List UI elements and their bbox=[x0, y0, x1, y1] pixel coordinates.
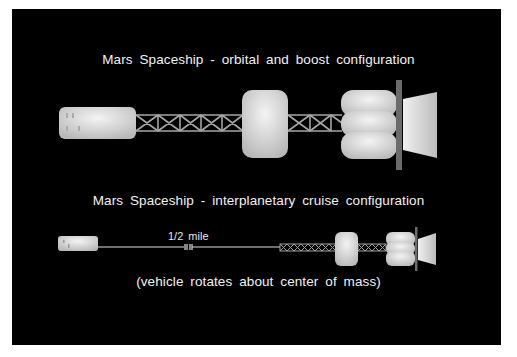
propellant-tank-icon bbox=[242, 90, 288, 158]
thrust-plate-small-icon bbox=[415, 227, 418, 271]
habitat-module-icon bbox=[59, 107, 136, 139]
truss-icon bbox=[136, 115, 342, 131]
engine-tank-cluster-small-icon bbox=[386, 232, 415, 266]
boost-configuration-diagram bbox=[0, 0, 517, 357]
title-cruise-configuration: Mars Spaceship - interplanetary cruise c… bbox=[0, 193, 517, 208]
engine-nozzle-small-icon bbox=[418, 233, 436, 265]
truss-small-icon bbox=[280, 244, 386, 251]
rotation-note: (vehicle rotates about center of mass) bbox=[0, 274, 517, 289]
tether-icon bbox=[98, 244, 280, 250]
engine-tank-cluster-icon bbox=[341, 90, 397, 159]
engine-nozzle-icon bbox=[403, 92, 437, 158]
tether-length-label: 1/2 mile bbox=[168, 230, 209, 242]
propellant-tank-small-icon bbox=[335, 232, 358, 266]
thrust-plate-icon bbox=[396, 80, 402, 170]
habitat-module-small-icon bbox=[58, 236, 98, 251]
